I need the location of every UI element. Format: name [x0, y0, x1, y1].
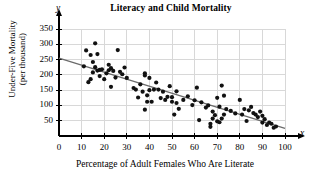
data-point	[145, 93, 149, 97]
data-point	[217, 120, 221, 124]
x-tick-label: 20	[92, 142, 116, 152]
data-point	[222, 113, 226, 117]
data-point	[98, 74, 102, 78]
data-point	[89, 53, 93, 57]
data-point	[172, 113, 176, 117]
data-point	[138, 82, 142, 86]
y-axis-arrowhead	[56, 9, 62, 16]
data-point	[177, 107, 181, 111]
y-tick-label: 50	[25, 115, 53, 125]
data-point	[269, 122, 273, 126]
data-point	[141, 90, 145, 94]
data-point	[147, 88, 151, 92]
data-point	[102, 77, 106, 81]
data-point	[168, 84, 172, 88]
y-tick-label: 250	[25, 54, 53, 64]
data-point	[249, 105, 253, 109]
x-tick-label: 80	[228, 142, 252, 152]
data-point	[222, 94, 226, 98]
data-point	[161, 90, 165, 94]
chart-figure: Literacy and Child Mortality Under-Five …	[0, 0, 321, 177]
data-point	[197, 118, 201, 122]
y-tick-label: 200	[25, 69, 53, 79]
data-point	[116, 48, 120, 52]
x-tick-label: 100	[273, 142, 297, 152]
data-point	[242, 107, 246, 111]
data-point	[109, 85, 113, 89]
data-point	[174, 101, 178, 105]
data-point	[224, 107, 228, 111]
data-point	[238, 98, 242, 102]
data-point	[256, 115, 260, 119]
data-point	[233, 111, 237, 115]
y-tick-label: 350	[25, 23, 53, 33]
gridlines	[59, 29, 285, 136]
x-tick-label: 60	[183, 142, 207, 152]
data-point	[263, 117, 267, 121]
data-point	[122, 65, 126, 69]
data-point	[113, 76, 117, 80]
axis-ticks	[56, 29, 285, 139]
data-point	[91, 60, 95, 64]
data-point	[213, 113, 217, 117]
data-point	[208, 122, 212, 126]
data-point	[91, 70, 95, 74]
data-point	[134, 87, 138, 91]
x-tick-label: 50	[160, 142, 184, 152]
data-point	[156, 87, 160, 91]
data-point	[145, 100, 149, 104]
data-point	[154, 80, 158, 84]
data-point	[136, 95, 140, 99]
data-point	[199, 100, 203, 104]
data-point	[229, 109, 233, 113]
data-point	[125, 76, 129, 80]
data-point	[240, 113, 244, 117]
data-point	[211, 109, 215, 113]
data-point	[100, 67, 104, 71]
data-point	[95, 52, 99, 56]
data-point	[165, 95, 169, 99]
y-tick-label: 300	[25, 38, 53, 48]
data-point	[170, 95, 174, 99]
data-point	[190, 103, 194, 107]
y-tick-label: 100	[25, 99, 53, 109]
data-point	[84, 48, 88, 52]
data-point	[220, 83, 224, 87]
x-tick-label: 90	[250, 142, 274, 152]
x-tick-label: 0	[47, 142, 71, 152]
x-tick-label: 40	[137, 142, 161, 152]
data-point	[215, 96, 219, 100]
data-point	[244, 119, 248, 123]
data-point	[193, 98, 197, 102]
data-point	[186, 94, 190, 98]
data-point	[170, 100, 174, 104]
data-point	[120, 72, 124, 76]
data-point	[195, 86, 199, 90]
data-point	[93, 41, 97, 45]
data-point	[111, 69, 115, 73]
data-point	[152, 87, 156, 91]
data-point	[174, 89, 178, 93]
data-point	[217, 105, 221, 109]
data-point	[147, 76, 151, 80]
x-tick-label: 10	[70, 142, 94, 152]
data-point	[220, 116, 224, 120]
y-tick-label: 150	[25, 84, 53, 94]
x-tick-label: 70	[205, 142, 229, 152]
data-point	[159, 96, 163, 100]
x-axis-arrowhead	[298, 133, 305, 139]
data-point	[258, 109, 262, 113]
data-point	[206, 103, 210, 107]
data-point	[82, 64, 86, 68]
x-tick-label: 30	[115, 142, 139, 152]
data-point	[143, 73, 147, 77]
data-point	[181, 98, 185, 102]
data-point	[274, 124, 278, 128]
data-point	[150, 100, 154, 104]
data-point	[143, 108, 147, 112]
data-point	[89, 77, 93, 81]
